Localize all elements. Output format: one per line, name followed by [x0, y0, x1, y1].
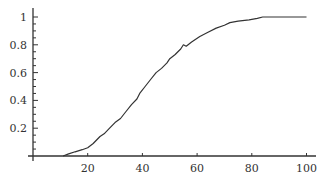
y-tick-label: 0.6 [10, 67, 28, 80]
y-tick-label: 0.2 [10, 122, 28, 135]
y-tick-label: 0.8 [10, 39, 28, 52]
series-line-cumulative [63, 17, 306, 156]
cumulative-line-chart: 0.20.40.60.81 20406080100 [0, 0, 331, 180]
x-tick-label: 20 [81, 162, 95, 175]
data-series [63, 17, 306, 156]
y-axis-ticks: 0.20.40.60.81 [10, 11, 39, 149]
x-tick-label: 100 [296, 162, 317, 175]
x-tick-label: 60 [190, 162, 204, 175]
y-tick-label: 0.4 [10, 94, 28, 107]
x-tick-label: 80 [245, 162, 259, 175]
axes: 0.20.40.60.81 20406080100 [10, 8, 318, 175]
y-tick-label: 1 [20, 11, 27, 24]
x-tick-label: 40 [135, 162, 149, 175]
